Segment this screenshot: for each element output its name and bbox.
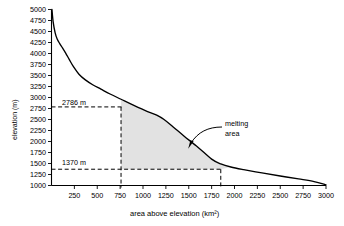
melting-area-label-line1: melting [225, 119, 248, 128]
y-tick-label: 1250 [30, 170, 46, 179]
melting-area-shaded-region [121, 99, 231, 169]
y-tick-label: 4000 [30, 49, 46, 58]
hypsometric-curve-figure: 1000125015001750200022502500275030003250… [0, 0, 344, 226]
x-tick-label: 250 [68, 191, 80, 200]
y-axis-title: elevation (m) [11, 100, 18, 140]
x-tick-label: 2750 [295, 191, 311, 200]
x-tick-label: 2500 [272, 191, 288, 200]
y-tick-label: 3500 [30, 71, 46, 80]
y-axis-tick-labels: 1000125015001750200022502500275030003250… [30, 5, 46, 190]
x-tick-label: 1000 [135, 191, 151, 200]
x-tick-label: 3000 [318, 191, 334, 200]
y-tick-label: 4250 [30, 38, 46, 47]
y-tick-label: 1750 [30, 148, 46, 157]
x-tick-label: 1250 [158, 191, 174, 200]
y-tick-label: 1500 [30, 159, 46, 168]
x-tick-label: 2250 [249, 191, 265, 200]
melting-area-arrow [191, 127, 222, 143]
y-tick-label: 5000 [30, 5, 46, 14]
y-tick-label: 1000 [30, 181, 46, 190]
y-tick-label: 2000 [30, 137, 46, 146]
x-axis-tick-labels: 2505007501000125015001750200022502500275… [68, 191, 334, 200]
x-axis-title: area above elevation (km²) [130, 209, 219, 218]
y-tick-label: 4500 [30, 27, 46, 36]
x-tick-label: 1750 [204, 191, 220, 200]
y-tick-label: 4750 [30, 16, 46, 25]
chart-canvas: 1000125015001750200022502500275030003250… [0, 0, 344, 226]
y-tick-label: 3750 [30, 60, 46, 69]
upper-elevation-label: 2786 m [62, 98, 86, 107]
lower-elevation-label: 1370 m [62, 158, 86, 167]
y-tick-label: 3250 [30, 82, 46, 91]
x-tick-label: 750 [114, 191, 126, 200]
x-tick-label: 500 [91, 191, 103, 200]
x-tick-label: 1500 [181, 191, 197, 200]
x-tick-label: 2000 [227, 191, 243, 200]
y-tick-label: 2500 [30, 115, 46, 124]
y-tick-label: 2250 [30, 126, 46, 135]
y-tick-label: 2750 [30, 104, 46, 113]
melting-area-label-line2: area [225, 129, 239, 138]
y-tick-label: 3000 [30, 93, 46, 102]
